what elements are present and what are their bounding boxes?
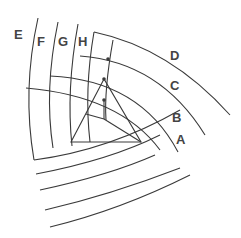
label-H: H	[78, 34, 87, 49]
label-A: A	[176, 132, 186, 147]
label-D: D	[170, 48, 179, 63]
arc-C	[80, 56, 205, 135]
label-E: E	[14, 27, 23, 42]
label-B: B	[172, 110, 181, 125]
curve-H	[88, 32, 94, 142]
lower-arc-1	[34, 110, 180, 160]
point-3	[102, 98, 106, 102]
label-C: C	[170, 78, 180, 93]
lower-arcs	[34, 110, 190, 227]
label-G: G	[58, 34, 68, 49]
geometric-grid-diagram: D C B A E F G H	[0, 0, 241, 238]
triangle-inner-left	[86, 114, 104, 119]
curve-G	[70, 24, 78, 146]
triangle-inner-right	[104, 119, 141, 142]
arc-D	[94, 32, 230, 115]
lower-arc-3	[40, 155, 155, 190]
point-2	[102, 77, 106, 81]
curve-F	[49, 22, 58, 148]
lower-arc-2	[36, 135, 160, 174]
point-1	[106, 57, 110, 61]
label-F: F	[37, 34, 45, 49]
